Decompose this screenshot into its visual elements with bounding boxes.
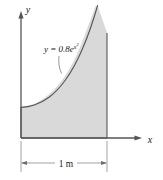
- leader-line: [59, 56, 62, 74]
- y-axis-arrowhead: [18, 11, 23, 19]
- x-axis-label: x: [147, 134, 153, 145]
- equation-exponent-power: 2: [77, 42, 79, 47]
- dimension-arrow-left: [21, 161, 27, 165]
- diagram-canvas: y x y = 0.8ex2 1 m: [0, 0, 163, 180]
- curve-equation-label: y = 0.8ex2: [43, 42, 79, 54]
- x-axis-arrowhead: [135, 135, 143, 140]
- y-axis-label: y: [25, 4, 31, 15]
- dimension-label: 1 m: [59, 159, 74, 169]
- dimension-arrow-right: [101, 161, 107, 165]
- shaded-area-final: [21, 6, 107, 139]
- equation-text: y = 0.8ex2: [43, 42, 79, 54]
- figure-container: y x y = 0.8ex2 1 m: [0, 0, 163, 180]
- equation-prefix: y = 0.8: [43, 44, 70, 54]
